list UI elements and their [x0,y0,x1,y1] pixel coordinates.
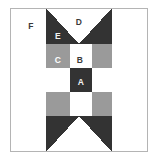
label-C: C [55,55,61,65]
quilt-block-svg: F D E C B A [0,0,158,162]
corner-top-right-square [112,8,148,44]
nine-patch-r1c3 [92,44,112,68]
nine-patch-r3c2 [70,92,92,116]
label-E: E [55,31,61,41]
label-D: D [76,17,82,27]
nine-patch-r2c1 [46,68,70,92]
nine-patch-r3c1 [46,92,70,116]
corner-bottom-right-square [112,116,148,152]
nine-patch-r2c3 [92,68,112,92]
geese-bottom-unit [46,116,112,152]
nine-patch-r3c3 [92,92,112,116]
label-F: F [28,21,33,31]
quilt-block-figure: F D E C B A [0,0,158,162]
label-A: A [78,77,84,87]
corner-bottom-left-square [10,116,46,152]
label-B: B [77,55,83,65]
